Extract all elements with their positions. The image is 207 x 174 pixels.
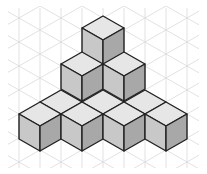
grid-line (8, 156, 199, 174)
cube-stack-drawing (0, 0, 207, 174)
cubes (19, 16, 187, 151)
grid-line (8, 0, 199, 1)
grid-line (8, 155, 199, 174)
back-row-cube-tops (40, 90, 166, 114)
isometric-cube-figure (0, 0, 207, 174)
